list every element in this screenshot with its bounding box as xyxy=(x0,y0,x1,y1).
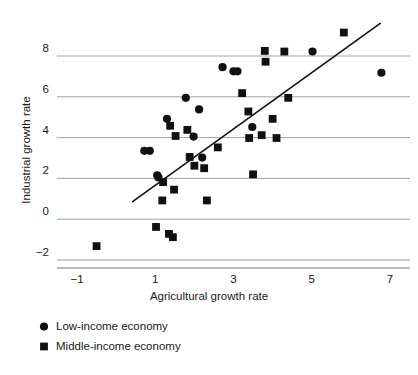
data-point-low-income xyxy=(248,123,256,131)
data-point-low-income xyxy=(233,67,241,75)
data-point-middle-income xyxy=(245,134,253,142)
data-point-middle-income xyxy=(186,153,194,161)
data-point-middle-income xyxy=(200,164,208,172)
data-point-middle-income xyxy=(158,197,166,205)
data-point-middle-income xyxy=(214,143,222,151)
y-tick-label-8: 8 xyxy=(43,42,49,54)
data-point-low-income xyxy=(218,63,226,71)
x-tick-label-1: 1 xyxy=(152,273,158,285)
data-point-low-income xyxy=(198,153,206,161)
data-point-middle-income xyxy=(152,223,160,231)
data-point-middle-income xyxy=(183,126,191,134)
data-point-middle-income xyxy=(244,108,252,116)
data-point-middle-income xyxy=(261,47,269,55)
x-tick-label-5: 5 xyxy=(309,273,315,285)
data-point-middle-income xyxy=(258,131,266,139)
y-tick-label-6: 6 xyxy=(43,83,49,95)
data-point-middle-income xyxy=(93,242,101,250)
data-point-middle-income xyxy=(159,178,167,186)
data-point-low-income xyxy=(182,94,190,102)
data-point-middle-income xyxy=(262,58,270,66)
data-point-middle-income xyxy=(238,89,246,97)
legend-marker-circle-icon xyxy=(40,322,48,330)
data-point-middle-income xyxy=(203,197,211,205)
y-tick-label--2: −2 xyxy=(36,246,49,258)
data-point-middle-income xyxy=(249,170,257,178)
x-tick-label-7: 7 xyxy=(387,273,393,285)
legend-item-label: Low-income economy xyxy=(56,320,168,332)
data-point-middle-income xyxy=(170,186,178,194)
data-point-middle-income xyxy=(269,115,277,123)
chart-canvas: −202468 −11357 Agricultural growth rate … xyxy=(0,0,418,375)
legend-item-label: Middle-income economy xyxy=(56,340,181,352)
x-axis-tick-labels: −11357 xyxy=(70,273,393,285)
y-axis-tick-labels: −202468 xyxy=(36,42,50,258)
y-tick-label-0: 0 xyxy=(43,205,49,217)
data-point-middle-income xyxy=(169,233,177,241)
x-tick-label-3: 3 xyxy=(230,273,236,285)
data-point-low-income xyxy=(195,105,203,113)
y-axis-title: Industrial growth rate xyxy=(20,96,32,203)
data-point-middle-income xyxy=(190,162,198,170)
x-tick-label--1: −1 xyxy=(70,273,83,285)
scatter-plot-figure: −202468 −11357 Agricultural growth rate … xyxy=(0,0,418,375)
y-tick-label-4: 4 xyxy=(43,124,50,136)
axis-titles: Agricultural growth rate Industrial grow… xyxy=(20,96,268,302)
data-point-middle-income xyxy=(172,132,180,140)
data-point-middle-income xyxy=(166,122,174,130)
data-point-middle-income xyxy=(280,48,288,56)
data-point-middle-income xyxy=(284,94,292,102)
chart-legend: Low-income economyMiddle-income economy xyxy=(40,320,181,352)
data-point-middle-income xyxy=(273,134,281,142)
data-point-low-income xyxy=(163,115,171,123)
data-point-low-income xyxy=(377,69,385,77)
y-tick-label-2: 2 xyxy=(43,164,49,176)
y-gridlines xyxy=(57,56,410,260)
data-point-middle-income xyxy=(340,29,348,37)
data-point-low-income xyxy=(308,47,316,55)
x-axis-title: Agricultural growth rate xyxy=(150,290,268,302)
legend-marker-square-icon xyxy=(40,343,48,351)
series-low-income-economy-markers xyxy=(140,47,385,181)
data-point-low-income xyxy=(146,147,154,155)
